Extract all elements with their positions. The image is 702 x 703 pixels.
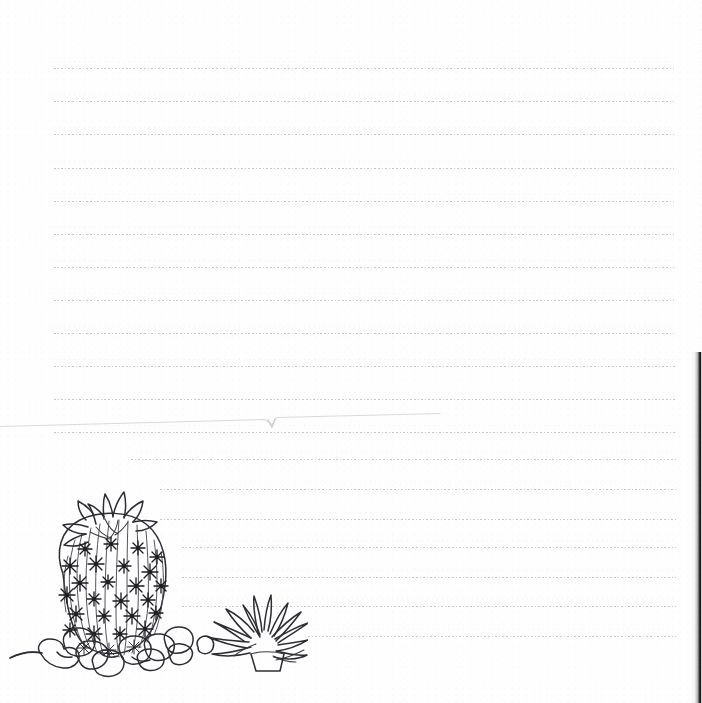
- writing-rule-line: [54, 168, 674, 169]
- writing-rule-line: [308, 636, 676, 637]
- agave-plant: [208, 595, 308, 671]
- cactus-flower-crown: [63, 492, 157, 546]
- writing-rule-line: [54, 134, 674, 135]
- writing-rule-line: [54, 101, 674, 102]
- worksheet-page: [0, 0, 702, 703]
- writing-rule-line: [54, 333, 674, 334]
- writing-rule-line: [54, 399, 676, 400]
- writing-rule-line: [54, 366, 676, 367]
- cactus-spines: [59, 537, 168, 657]
- writing-rule-line: [54, 68, 674, 69]
- writing-rule-line: [54, 234, 674, 235]
- writing-rule-line: [54, 300, 674, 301]
- writing-rule-line: [131, 459, 676, 460]
- writing-rule-line: [54, 201, 674, 202]
- writing-rule-line: [54, 432, 676, 433]
- writing-rule-line: [54, 267, 674, 268]
- page-edge-shadow: [690, 352, 702, 703]
- ground-line: [10, 650, 304, 660]
- cactus-illustration: [8, 482, 308, 696]
